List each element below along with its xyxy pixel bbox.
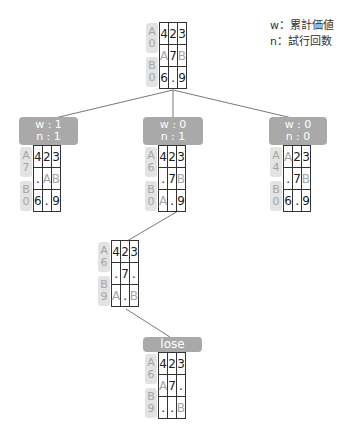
side-a-value: 6 [98, 257, 110, 269]
cell: . [112, 263, 121, 285]
cell: 2 [168, 146, 177, 168]
cell: . [168, 397, 177, 419]
cell: . [34, 168, 43, 190]
board-grid: 423 A7B 6.9 [159, 22, 187, 89]
side-a-value: 6 [145, 162, 157, 174]
side-label-a: A 0 [146, 23, 158, 53]
side-a-value: 6 [145, 369, 157, 381]
edge-third-final [126, 309, 170, 337]
cell: 9 [301, 190, 310, 212]
cell: 6 [34, 190, 43, 212]
cell: . [284, 168, 293, 190]
cell: 2 [169, 23, 178, 45]
cell: 7 [169, 45, 178, 67]
cell: A [160, 45, 169, 67]
cell: 3 [176, 353, 185, 375]
side-label-b: B 9 [98, 276, 110, 306]
stat-n: n : 0 [269, 131, 327, 143]
cell: A [284, 146, 293, 168]
board-grid: 423 .7. A.B [111, 240, 139, 307]
cell: B [301, 168, 310, 190]
side-label-a: A 6 [98, 242, 110, 272]
cell: 6 [160, 67, 169, 89]
cell: B [51, 168, 60, 190]
side-label-a: A 6 [145, 147, 157, 177]
cell: . [176, 375, 185, 397]
side-label-b: B 0 [270, 181, 282, 211]
cell: 3 [129, 241, 138, 263]
cell: . [129, 263, 138, 285]
cell: B [176, 397, 185, 419]
board-grid: 423 .AB 6.9 [33, 145, 61, 212]
cell: 4 [34, 146, 43, 168]
cell: A [159, 190, 168, 212]
cell: 2 [168, 353, 177, 375]
side-label-b: B 0 [20, 181, 32, 211]
node-stats-label: w : 1 n : 1 [19, 117, 78, 145]
cell: A [159, 375, 168, 397]
cell: 7 [121, 263, 130, 285]
cell: B [177, 45, 186, 67]
cell: A [112, 285, 121, 307]
side-a-value: 4 [270, 162, 282, 174]
stat-n: n : 1 [19, 131, 78, 143]
side-b-value: 0 [20, 196, 32, 208]
cell: 7 [168, 168, 177, 190]
side-label-a: A 7 [20, 147, 32, 177]
cell: 2 [293, 146, 302, 168]
edge-center-third [127, 211, 178, 241]
board-grid: 423 .7B A.9 [158, 145, 186, 212]
cell: 3 [176, 146, 185, 168]
cell: . [159, 168, 168, 190]
side-b-value: 0 [146, 72, 158, 84]
cell: A [42, 168, 51, 190]
cell: 3 [301, 146, 310, 168]
side-b-value: 0 [145, 196, 157, 208]
side-a-value: 0 [146, 38, 158, 50]
side-label-b: B 0 [145, 181, 157, 211]
cell: 7 [168, 375, 177, 397]
board-grid: 423 A7. ..B [158, 352, 186, 419]
side-label-b: B 9 [145, 388, 157, 418]
cell: 4 [159, 353, 168, 375]
cell: 2 [42, 146, 51, 168]
board-grid: A23 .7B 6.9 [283, 145, 311, 212]
cell: 9 [177, 67, 186, 89]
side-label-a: A 6 [145, 354, 157, 384]
stat-n: n : 1 [143, 131, 203, 143]
cell: . [169, 67, 178, 89]
cell: 3 [51, 146, 60, 168]
cell: 3 [177, 23, 186, 45]
side-a-value: 7 [20, 162, 32, 174]
cell: B [176, 168, 185, 190]
cell: 2 [121, 241, 130, 263]
cell: 7 [293, 168, 302, 190]
cell: . [121, 285, 130, 307]
side-b-value: 9 [98, 291, 110, 303]
cell: 9 [176, 190, 185, 212]
cell: 4 [159, 146, 168, 168]
edge-root-right [173, 90, 292, 118]
cell: B [129, 285, 138, 307]
node-stats-label: w : 0 n : 0 [269, 117, 327, 145]
cell: . [293, 190, 302, 212]
side-b-value: 0 [270, 196, 282, 208]
cell: 6 [284, 190, 293, 212]
cell: 4 [160, 23, 169, 45]
side-label-b: B 0 [146, 57, 158, 87]
cell: . [159, 397, 168, 419]
result-label: lose [143, 337, 202, 352]
side-label-a: A 4 [270, 147, 282, 177]
side-b-value: 9 [145, 403, 157, 415]
cell: . [42, 190, 51, 212]
cell: 9 [51, 190, 60, 212]
cell: 4 [112, 241, 121, 263]
edge-root-left [55, 90, 173, 118]
cell: . [168, 190, 177, 212]
node-stats-label: w : 0 n : 1 [143, 117, 203, 145]
